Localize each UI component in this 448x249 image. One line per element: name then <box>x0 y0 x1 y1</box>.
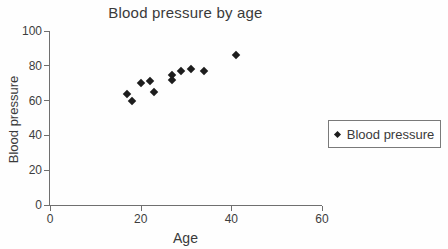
data-point-marker <box>168 75 176 83</box>
y-axis-tick <box>44 205 49 206</box>
x-axis-tick <box>231 206 232 211</box>
data-point-marker <box>136 79 144 87</box>
data-point-marker <box>186 65 194 73</box>
x-axis-tick <box>141 206 142 211</box>
data-point-marker <box>150 88 158 96</box>
y-axis-tick <box>44 65 49 66</box>
y-axis-tick-label: 100 <box>6 25 42 37</box>
y-axis-tick-label: 20 <box>6 164 42 176</box>
y-axis-tick-label: 80 <box>6 60 42 72</box>
chart-title: Blood pressure by age <box>49 4 322 21</box>
y-axis-tick <box>44 135 49 136</box>
diamond-marker-icon <box>334 130 341 137</box>
x-axis-tick-label: 20 <box>126 213 156 225</box>
plot-area: 0204060801000204060 <box>49 31 322 206</box>
x-axis-tick <box>322 206 323 211</box>
x-axis-tick-label: 60 <box>307 213 337 225</box>
y-axis-tick-label: 60 <box>6 95 42 107</box>
y-axis-tick <box>44 100 49 101</box>
y-axis-title: Blood pressure <box>6 60 21 180</box>
y-axis-tick-label: 0 <box>6 199 42 211</box>
data-point-marker <box>232 51 240 59</box>
data-point-marker <box>123 89 131 97</box>
data-point-marker <box>200 67 208 75</box>
legend-label: Blood pressure <box>347 128 434 141</box>
data-point-marker <box>177 67 185 75</box>
y-axis-tick <box>44 170 49 171</box>
y-axis-tick <box>44 31 49 32</box>
legend: Blood pressure <box>328 120 441 148</box>
scatter-chart: Blood pressure by age Blood pressure 020… <box>0 0 448 249</box>
data-point-marker <box>145 77 153 85</box>
y-axis-tick-label: 40 <box>6 129 42 141</box>
x-axis-tick-label: 0 <box>35 213 65 225</box>
data-point-marker <box>127 96 135 104</box>
x-axis-title: Age <box>49 230 322 246</box>
x-axis-tick-label: 40 <box>216 213 246 225</box>
x-axis-tick <box>50 206 51 211</box>
